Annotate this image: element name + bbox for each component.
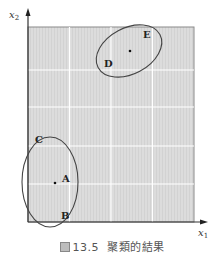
figure-caption: 13.5 聚類的結果 [0, 238, 224, 254]
point-label-d: D [104, 58, 113, 69]
x-axis-arrow-icon [200, 220, 208, 225]
figure-mark-icon [60, 242, 70, 252]
caption-text: 聚類的結果 [107, 241, 165, 254]
point-label-c: C [35, 134, 43, 145]
cluster-diagram: x2 x1 E D C A B [0, 0, 224, 267]
cluster-centroid [54, 182, 57, 185]
point-label-a: A [61, 173, 70, 184]
y-axis-label: x2 [9, 9, 19, 22]
point-label-b: B [61, 210, 69, 221]
caption-number: 13.5 [73, 241, 100, 254]
y-axis-arrow-icon [26, 8, 31, 16]
point-label-e: E [143, 29, 151, 40]
cluster-centroid [129, 50, 132, 53]
